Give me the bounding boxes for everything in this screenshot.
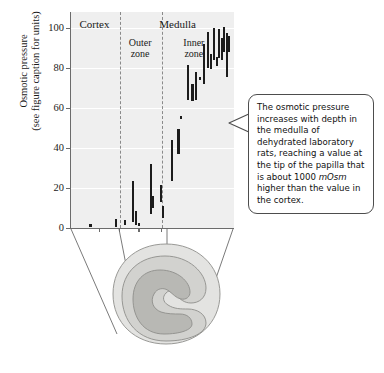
data-point bbox=[199, 77, 201, 80]
callout-text-part1: The osmotic pressure increases with dept… bbox=[257, 102, 364, 182]
y-axis-tick bbox=[66, 148, 71, 149]
zone-label-medulla: Medulla bbox=[138, 18, 218, 31]
zone-label-inner-line2: zone bbox=[154, 48, 234, 60]
callout-text-part2: higher than the value in the cortex. bbox=[257, 183, 360, 205]
callout-box: The osmotic pressure increases with dept… bbox=[248, 94, 374, 214]
y-axis-tick-label-20: 20 bbox=[54, 183, 65, 194]
zone-label-cortex: Cortex bbox=[54, 18, 134, 31]
y-axis-tick bbox=[66, 68, 71, 69]
data-point bbox=[162, 206, 164, 218]
data-point bbox=[195, 72, 197, 100]
gridline bbox=[71, 188, 234, 189]
data-point bbox=[187, 65, 189, 100]
y-axis-title-line2: (see figure caption for units) bbox=[30, 11, 42, 131]
y-axis-tick bbox=[66, 188, 71, 189]
data-point bbox=[180, 116, 182, 119]
osmotic-pressure-figure: Osmotic pressure (see figure caption for… bbox=[0, 0, 384, 373]
data-point bbox=[160, 185, 162, 202]
y-axis-tick-label-80: 80 bbox=[54, 63, 65, 74]
gridline bbox=[71, 148, 234, 149]
kidney-diagram-group bbox=[0, 224, 384, 373]
data-point bbox=[191, 84, 193, 101]
data-point bbox=[171, 140, 173, 181]
y-axis-tick bbox=[66, 108, 71, 109]
y-axis-tick-label-40: 40 bbox=[54, 143, 65, 154]
zone-label-inner-line1: Inner bbox=[154, 37, 234, 49]
y-axis-title-line1: Osmotic pressure bbox=[18, 34, 30, 107]
y-axis-title: Osmotic pressure (see figure caption for… bbox=[13, 0, 47, 161]
y-axis-tick-label-60: 60 bbox=[54, 103, 65, 114]
callout-text-italic: mOsm bbox=[319, 172, 347, 182]
gridline bbox=[71, 108, 234, 109]
data-point bbox=[132, 181, 134, 222]
data-point bbox=[151, 196, 153, 208]
data-point bbox=[177, 129, 179, 154]
